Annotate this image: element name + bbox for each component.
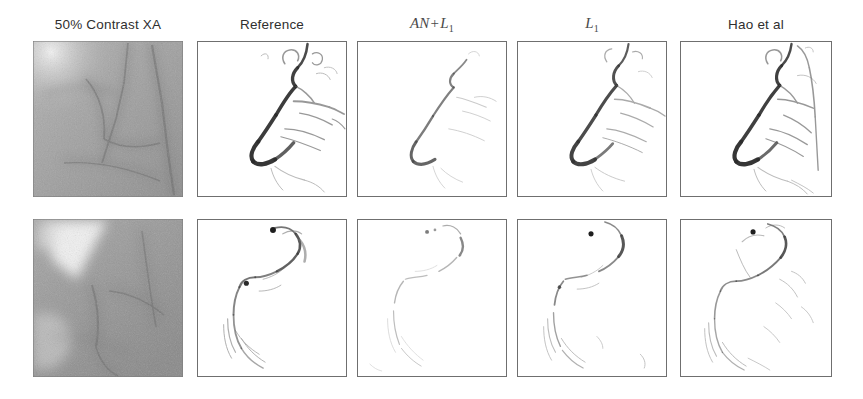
plus-operator: + bbox=[430, 15, 441, 31]
panel-case1-contrast-xa bbox=[33, 41, 183, 197]
vessel-map-case2-l1 bbox=[518, 220, 666, 376]
panel-case2-reference bbox=[197, 219, 347, 377]
l-subscript: 1 bbox=[449, 23, 454, 34]
xa-image-case1 bbox=[33, 41, 183, 197]
vessel-map-case2-reference bbox=[198, 220, 346, 376]
l-label: L bbox=[585, 15, 594, 31]
vessel-marker bbox=[558, 285, 562, 289]
panel-case2-l1 bbox=[517, 219, 667, 377]
panel-case2-hao-et-al bbox=[680, 219, 832, 377]
column-header-hao-et-al: Hao et al bbox=[680, 18, 832, 32]
vessel-marker bbox=[588, 231, 593, 236]
xa-image-case2 bbox=[33, 219, 183, 377]
vessel-marker bbox=[244, 281, 249, 286]
vessel-marker bbox=[434, 229, 437, 232]
panel-case1-l1 bbox=[517, 41, 667, 197]
vessel-map-case2-hao-et-al bbox=[681, 220, 831, 376]
panel-case1-hao-et-al bbox=[680, 41, 832, 197]
vessel-map-case1-l1 bbox=[518, 42, 666, 196]
column-header-an-plus-l1: AN+L1 bbox=[357, 16, 507, 34]
panel-case1-an-plus-l1 bbox=[357, 41, 507, 197]
l-subscript: 1 bbox=[594, 23, 599, 34]
panel-case1-reference bbox=[197, 41, 347, 197]
vessel-marker bbox=[750, 229, 755, 234]
column-header-reference: Reference bbox=[197, 18, 347, 32]
figure-image-grid: 50% Contrast XA Reference AN+L1 L1 Hao e… bbox=[0, 0, 863, 399]
vessel-marker bbox=[270, 227, 276, 233]
an-label: AN bbox=[410, 15, 430, 31]
column-header-l1: L1 bbox=[517, 16, 667, 34]
vessel-map-case2-an-plus-l1 bbox=[358, 220, 506, 376]
vessel-map-case1-an-plus-l1 bbox=[358, 42, 506, 196]
vessel-map-case1-reference bbox=[198, 42, 346, 196]
vessel-map-case1-hao-et-al bbox=[681, 42, 831, 196]
panel-case2-an-plus-l1 bbox=[357, 219, 507, 377]
l-label: L bbox=[440, 15, 449, 31]
panel-case2-contrast-xa bbox=[33, 219, 183, 377]
column-header-contrast-xa: 50% Contrast XA bbox=[33, 18, 183, 32]
vessel-marker bbox=[425, 230, 429, 234]
